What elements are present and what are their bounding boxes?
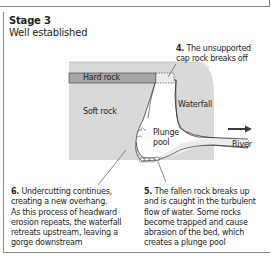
annotation-6-line: erosion repeats, the waterfall	[11, 218, 121, 228]
annotation-5-line: become trapped and cause	[144, 218, 256, 228]
annotation-4-line: The unsupported	[186, 44, 251, 53]
label-plunge-pool-1: Plunge	[153, 128, 179, 138]
label-soft-rock: Soft rock	[83, 107, 117, 117]
label-hard-rock: Hard rock	[83, 73, 120, 83]
leader-line-5	[158, 162, 166, 182]
flow-arrow-icon	[228, 126, 252, 133]
annotation-6-line: gorge downstream	[11, 238, 121, 248]
annotation-5-line: and is caught in the turbulent	[144, 197, 256, 207]
annotation-4: 4. The unsupported cap rock breaks off	[176, 44, 251, 65]
annotation-5: 5. The fallen rock breaks up and is caug…	[144, 187, 256, 249]
annotation-4-line: cap rock breaks off	[176, 54, 251, 64]
annotation-6-line: creating a new overhang.	[11, 197, 121, 207]
annotation-4-number: 4.	[176, 44, 184, 53]
annotation-6-line: As this process of headward	[11, 208, 121, 218]
label-river: River	[232, 140, 252, 150]
cap-rock-dashed	[156, 73, 174, 83]
annotation-6-line: Undercutting continues,	[21, 187, 111, 196]
annotation-5-line: flow of water. Some rocks	[144, 208, 256, 218]
annotation-5-line: abrasion of the bed, which	[144, 228, 256, 238]
annotation-5-line: creates a plunge pool	[144, 238, 256, 248]
annotation-6-line: retreats upstream, leaving a	[11, 228, 121, 238]
label-waterfall: Waterfall	[178, 100, 212, 110]
annotation-5-line: The fallen rock breaks up	[154, 187, 249, 196]
annotation-6-number: 6.	[11, 187, 19, 196]
label-plunge-pool-2: pool	[153, 138, 169, 148]
annotation-6: 6. Undercutting continues, creating a ne…	[11, 187, 121, 249]
annotation-5-number: 5.	[144, 187, 152, 196]
